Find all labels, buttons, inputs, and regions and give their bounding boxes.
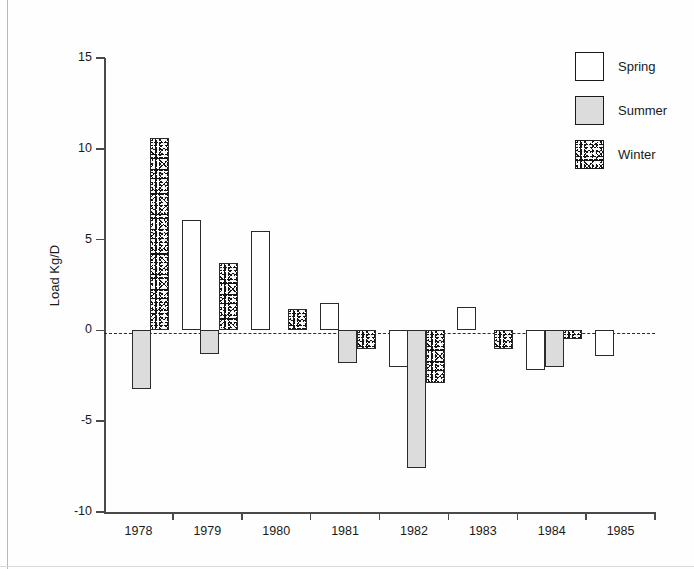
y-tick-label: 10 (46, 141, 92, 155)
bar-1982-spring (389, 330, 408, 366)
y-tick-label: 15 (46, 50, 92, 64)
y-axis-line (104, 58, 106, 513)
legend-swatch-summer (575, 96, 604, 125)
x-tick-mark (310, 512, 312, 520)
bar-1984-summer (545, 330, 564, 366)
bar-1982-winter (426, 330, 445, 383)
bar-1978-winter (150, 138, 169, 330)
x-tick-label: 1983 (453, 524, 513, 538)
x-tick-label: 1985 (591, 524, 651, 538)
bar-1983-winter (494, 330, 513, 348)
x-tick-mark (241, 512, 243, 520)
bar-1984-winter (563, 330, 582, 339)
x-tick-mark (585, 512, 587, 520)
bar-1981-spring (320, 303, 339, 330)
x-tick-label: 1984 (522, 524, 582, 538)
bar-1979-winter (219, 263, 238, 330)
chart-page: Load Kg/D 151050-5-10 197819791980198119… (0, 0, 694, 569)
legend-label: Spring (618, 59, 656, 74)
x-tick-mark (379, 512, 381, 520)
legend-label: Summer (618, 103, 667, 118)
y-tick-label: 0 (46, 322, 92, 336)
y-tick-mark (96, 239, 105, 241)
x-tick-label: 1979 (177, 524, 237, 538)
bar-1985-spring (595, 330, 614, 355)
legend-item-summer[interactable]: Summer (575, 88, 691, 132)
bar-1978-summer (132, 330, 151, 388)
bar-1979-summer (200, 330, 219, 354)
y-tick-mark (96, 511, 105, 513)
x-tick-mark (654, 512, 656, 520)
bar-1984-spring (526, 330, 545, 370)
x-tick-mark (517, 512, 519, 520)
legend-item-spring[interactable]: Spring (575, 44, 691, 88)
bar-1980-winter (288, 309, 307, 331)
x-tick-label: 1980 (246, 524, 306, 538)
y-tick-label: -10 (46, 504, 92, 518)
legend-swatch-spring (575, 52, 604, 81)
y-tick-mark (96, 57, 105, 59)
x-tick-label: 1982 (384, 524, 444, 538)
bar-1982-summer (407, 330, 426, 468)
bar-1980-spring (251, 231, 270, 331)
legend-swatch-winter (575, 140, 604, 169)
x-tick-label: 1981 (315, 524, 375, 538)
y-tick-mark (96, 330, 105, 332)
y-tick-label: 5 (46, 232, 92, 246)
y-tick-mark (96, 148, 105, 150)
bar-1979-spring (182, 220, 201, 331)
chart-legend: SpringSummerWinter (575, 44, 691, 176)
legend-label: Winter (618, 147, 656, 162)
bar-1983-spring (457, 307, 476, 331)
y-tick-label: -5 (46, 413, 92, 427)
x-tick-mark (448, 512, 450, 520)
x-tick-mark (172, 512, 174, 520)
bar-1981-winter (357, 330, 376, 348)
bar-1981-summer (338, 330, 357, 363)
x-tick-label: 1978 (108, 524, 168, 538)
legend-item-winter[interactable]: Winter (575, 132, 691, 176)
y-tick-mark (96, 420, 105, 422)
